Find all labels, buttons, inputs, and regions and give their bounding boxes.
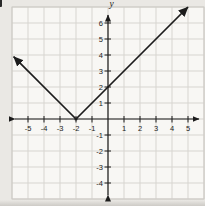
x-tick-label: 5 [186,124,190,133]
x-tick-label: -2 [73,124,80,133]
x-tick-label: 2 [138,124,142,133]
y-axis-label: y [109,0,115,9]
x-tick-label: -3 [57,124,64,133]
vertex-point [74,117,77,120]
y-tick-label: 1 [99,99,103,108]
y-tick-label: 4 [99,51,103,60]
y-tick-label: -2 [96,147,103,156]
x-tick-label: -1 [89,124,96,133]
y-tick-label: 3 [99,67,103,76]
x-tick-label: -5 [25,124,32,133]
y-tick-label: 2 [99,83,103,92]
y-tick-label: 6 [99,19,103,28]
x-tick-label: 1 [122,124,126,133]
y-tick-label: -3 [96,163,103,172]
coordinate-grid-chart: -5-4-3-2-112345-4-3-2-1123456y [0,0,205,206]
x-tick-label: -4 [41,124,48,133]
y-tick-label: -1 [96,131,103,140]
graph-panel: -5-4-3-2-112345-4-3-2-1123456y [0,0,205,206]
x-tick-label: 3 [154,124,158,133]
x-tick-label: 4 [170,124,174,133]
y-tick-label: -4 [96,179,103,188]
y-tick-label: 5 [99,35,103,44]
